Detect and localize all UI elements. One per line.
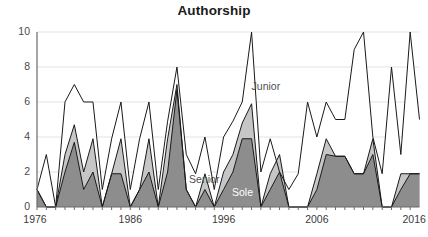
series-annotation: Sole [232, 186, 253, 198]
y-axis-labels: 0246810 [18, 25, 30, 212]
y-tick-label: 8 [24, 60, 30, 72]
y-tick-label: 0 [24, 200, 30, 212]
chart-container: Authorship 0246810 19761986199620062016 … [0, 0, 428, 237]
x-tick-label: 1996 [212, 213, 236, 225]
x-tick-label: 1976 [23, 213, 47, 225]
y-tick-label: 6 [24, 95, 30, 107]
x-tick-label: 1986 [119, 213, 143, 225]
y-tick-label: 10 [18, 25, 30, 37]
series-annotation: Junior [252, 80, 281, 92]
x-axis-ticks [37, 207, 410, 210]
x-tick-label: 2016 [402, 213, 426, 225]
y-tick-label: 2 [24, 165, 30, 177]
series-annotation: Senior [189, 173, 220, 185]
authorship-area-chart: 0246810 19761986199620062016 JuniorSenio… [0, 0, 428, 237]
x-tick-label: 2006 [305, 213, 329, 225]
x-axis-labels: 19761986199620062016 [23, 213, 426, 225]
y-tick-label: 4 [24, 130, 30, 142]
